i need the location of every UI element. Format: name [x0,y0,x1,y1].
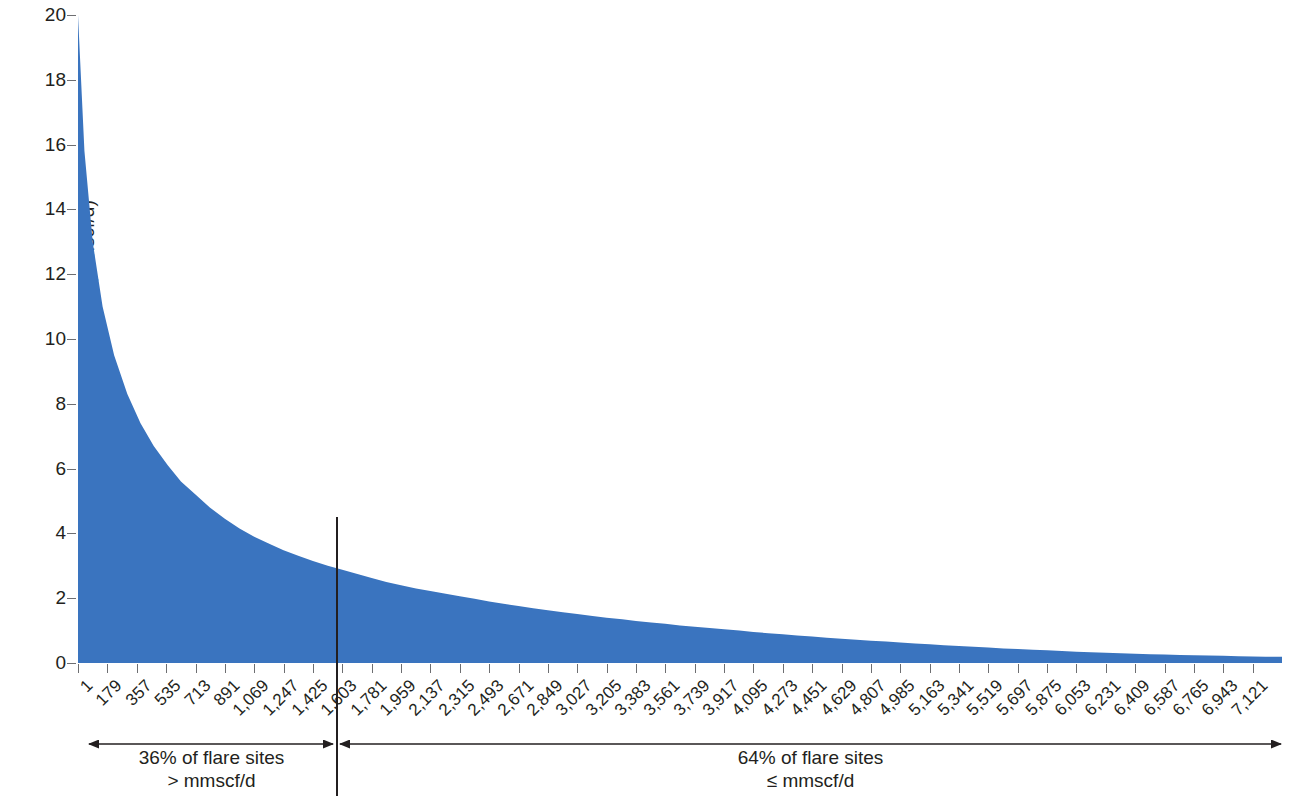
x-tick-label: 3,027 [552,676,596,720]
x-tick-mark [1076,664,1077,673]
y-tick-label: 16 [26,134,66,156]
y-tick-label: 8 [26,393,66,415]
x-tick-label: 6,053 [1051,676,1095,720]
x-tick-label: 6,765 [1169,676,1213,720]
y-tick-mark [67,339,76,340]
y-tick-mark [67,598,76,599]
x-tick-label: 6,943 [1198,676,1242,720]
x-tick-label: 713 [180,676,214,710]
x-tick-label: 3,739 [670,676,714,720]
y-tick-mark [67,469,76,470]
x-tick-mark [665,664,666,673]
x-tick-label: 3,561 [640,676,684,720]
y-tick-label: 2 [26,587,66,609]
x-tick-label: 5,163 [905,676,949,720]
x-tick-label: 5,519 [963,676,1007,720]
x-tick-mark [489,664,490,673]
x-tick-mark [1047,664,1048,673]
x-tick-label: 2,137 [405,676,449,720]
x-tick-mark [812,664,813,673]
x-tick-mark [1106,664,1107,673]
x-tick-label: 2,849 [523,676,567,720]
area-series-path [78,15,1282,663]
right-segment-line1: 64% of flare sites [340,746,1281,769]
x-tick-label: 179 [92,676,126,710]
x-tick-label: 5,697 [993,676,1037,720]
x-tick-label: 1 [76,676,97,697]
x-tick-label: 3,383 [611,676,655,720]
x-tick-mark [460,664,461,673]
x-tick-label: 2,493 [464,676,508,720]
x-tick-mark [1194,664,1195,673]
x-tick-label: 4,985 [875,676,919,720]
y-tick-label: 6 [26,458,66,480]
x-tick-mark [695,664,696,673]
y-tick-label: 4 [26,522,66,544]
x-tick-mark [430,664,431,673]
x-tick-label: 1,603 [317,676,361,720]
x-tick-mark [930,664,931,673]
y-tick-mark [67,145,76,146]
x-tick-label: 535 [151,676,185,710]
x-tick-mark [372,664,373,673]
x-tick-mark [753,664,754,673]
x-tick-label: 1,425 [288,676,332,720]
right-segment-line2: ≤ mmscf/d [340,769,1281,792]
left-segment-line1: 36% of flare sites [89,746,334,769]
plot-area [78,15,1282,663]
y-tick-mark [67,663,76,664]
x-tick-mark [107,664,108,673]
segment-annotations: 36% of flare sites > mmscf/d 64% of flar… [0,728,1290,796]
x-tick-mark [137,664,138,673]
x-tick-label: 4,095 [728,676,772,720]
x-tick-mark [577,664,578,673]
x-tick-label: 357 [122,676,156,710]
x-tick-mark [1135,664,1136,673]
x-tick-mark [783,664,784,673]
x-tick-mark [166,664,167,673]
x-tick-label: 4,807 [846,676,890,720]
x-tick-label: 2,315 [435,676,479,720]
left-segment-line2: > mmscf/d [89,769,334,792]
y-tick-mark [67,15,76,16]
y-tick-label: 12 [26,263,66,285]
y-tick-mark [67,533,76,534]
y-tick-mark [67,209,76,210]
x-tick-mark [196,664,197,673]
x-tick-label: 1,247 [259,676,303,720]
x-tick-mark [607,664,608,673]
x-tick-label: 6,409 [1110,676,1154,720]
x-tick-mark [225,664,226,673]
x-tick-mark [342,664,343,673]
flare-volume-chart: Volume of gas flared (mmscf/d) 024681012… [0,0,1290,796]
x-tick-label: 1,959 [376,676,420,720]
x-tick-mark [636,664,637,673]
y-tick-mark [67,404,76,405]
x-tick-label: 891 [210,676,244,710]
x-tick-label: 5,875 [1022,676,1066,720]
x-tick-mark [1165,664,1166,673]
x-tick-mark [724,664,725,673]
x-tick-label: 4,273 [758,676,802,720]
x-tick-label: 5,341 [934,676,978,720]
x-tick-label: 3,917 [699,676,743,720]
x-tick-label: 2,671 [493,676,537,720]
x-tick-label: 1,069 [229,676,273,720]
x-tick-mark [959,664,960,673]
y-tick-mark [67,80,76,81]
x-tick-mark [1253,664,1254,673]
left-segment-caption: 36% of flare sites > mmscf/d [89,746,334,792]
area-series-svg [78,15,1282,663]
x-tick-label: 1,781 [347,676,391,720]
y-tick-label: 14 [26,198,66,220]
x-tick-label: 4,629 [816,676,860,720]
x-tick-label: 4,451 [787,676,831,720]
x-tick-mark [842,664,843,673]
y-tick-label: 20 [26,4,66,26]
x-tick-mark [519,664,520,673]
x-tick-mark [313,664,314,673]
y-tick-label: 18 [26,69,66,91]
x-tick-mark [871,664,872,673]
x-tick-mark [988,664,989,673]
x-tick-label: 6,231 [1081,676,1125,720]
